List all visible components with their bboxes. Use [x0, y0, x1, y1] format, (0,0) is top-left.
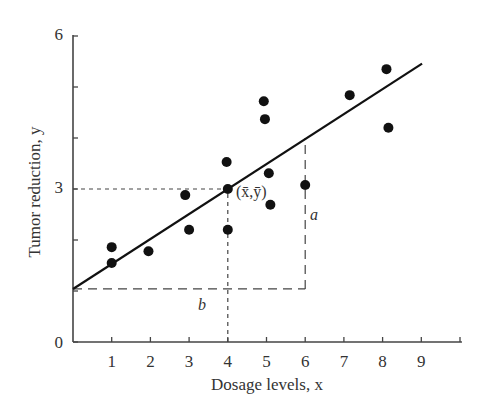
x-tick-label: 7	[340, 352, 349, 371]
x-tick-label: 2	[146, 352, 155, 371]
x-tick-label: 9	[417, 352, 426, 371]
x-axis-title: Dosage levels, x	[211, 375, 323, 394]
data-point	[107, 258, 117, 268]
data-point	[184, 225, 194, 235]
x-tick-label: 3	[185, 352, 194, 371]
data-point	[264, 168, 274, 178]
x-tick-label: 8	[378, 352, 387, 371]
y-tick-label-6: 6	[55, 25, 64, 44]
scatter-plot: 123456789 Tumor reduction, y Dosage leve…	[0, 0, 490, 415]
data-point	[222, 157, 232, 167]
regression-line-path	[73, 64, 422, 289]
data-point	[180, 190, 190, 200]
axis-labels: Tumor reduction, y Dosage levels, x 0 3 …	[25, 25, 323, 394]
y-axis-title: Tumor reduction, y	[25, 126, 44, 258]
data-point	[265, 200, 275, 210]
regression-line	[73, 64, 422, 289]
data-point	[223, 184, 233, 194]
x-tick-label: 5	[262, 352, 271, 371]
data-point	[381, 64, 391, 74]
x-tick-label: 6	[301, 352, 310, 371]
y-tick-label-0: 0	[55, 333, 64, 352]
annotation-a: a	[310, 206, 318, 223]
data-points	[107, 64, 394, 268]
x-tick-label: 1	[107, 352, 116, 371]
data-point	[143, 246, 153, 256]
data-point	[345, 90, 355, 100]
data-point	[107, 242, 117, 252]
annotation-b: b	[198, 296, 206, 313]
data-point	[383, 123, 393, 133]
data-point	[260, 114, 270, 124]
x-tick-label: 4	[224, 352, 233, 371]
data-point	[300, 180, 310, 190]
mean-point-label: (x̄,ȳ)	[236, 183, 267, 201]
chart-canvas: 123456789 Tumor reduction, y Dosage leve…	[0, 0, 490, 415]
data-point	[259, 96, 269, 106]
y-tick-label-3: 3	[55, 178, 64, 197]
data-point	[223, 225, 233, 235]
